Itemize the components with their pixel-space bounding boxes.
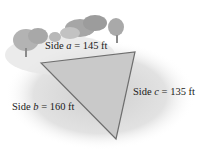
- side-a-label: Side a = 145 ft: [45, 41, 108, 52]
- triangle-lot-diagram: Side a = 145 ft Side b = 160 ft Side c =…: [0, 0, 208, 151]
- diagram-graphic: [0, 0, 208, 151]
- side-c-label: Side c = 135 ft: [133, 87, 195, 98]
- side-b-label: Side b = 160 ft: [12, 102, 75, 113]
